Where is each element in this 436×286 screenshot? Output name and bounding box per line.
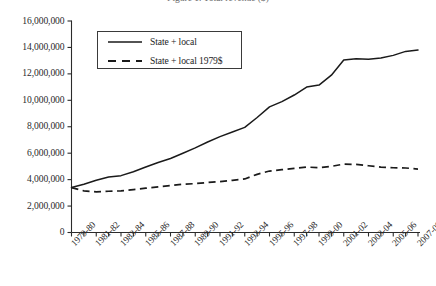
y-tick-label: 10,000,000 [22, 94, 64, 105]
series-line-state-local [72, 50, 419, 187]
y-tick-label: 14,000,000 [22, 41, 64, 52]
series-line-state-local-1979 [72, 164, 419, 192]
y-tick-label: 4,000,000 [27, 173, 64, 184]
legend-label-state-local: State + local [150, 36, 197, 47]
y-tick-label: 16,000,000 [22, 15, 64, 26]
data-series-group [72, 50, 419, 192]
y-tick-label: 8,000,000 [27, 120, 64, 131]
legend-item-state-local: State + local [98, 32, 243, 51]
chart-legend: State + local State + local 1979$ [97, 31, 242, 69]
legend-item-state-local-1979: State + local 1979$ [98, 51, 243, 70]
chart-container: Figure 1. Total revenue ($) 16,000,00014… [0, 0, 436, 286]
y-tick-label: 6,000,000 [27, 147, 64, 158]
y-tick-label: 12,000,000 [22, 67, 64, 78]
legend-label-state-local-1979: State + local 1979$ [150, 55, 223, 66]
y-tick-label: 0 [60, 226, 65, 237]
legend-solid-line-icon [107, 36, 143, 48]
legend-dashed-line-icon [107, 55, 143, 67]
y-tick-label: 2,000,000 [27, 200, 64, 211]
y-tick-marks [68, 21, 72, 233]
